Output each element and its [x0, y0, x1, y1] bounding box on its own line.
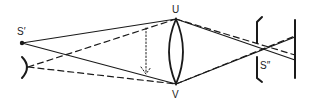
ray-u-to-screen: [176, 19, 295, 60]
dashed-ray-eye-to-v: [28, 67, 176, 84]
eye-icon: [22, 57, 27, 78]
label-u: U: [172, 4, 179, 15]
label-s-prime: S′: [17, 26, 26, 37]
ray-s-to-u: [22, 19, 176, 43]
ray-s-to-v: [22, 43, 176, 84]
label-v: V: [172, 89, 179, 100]
optics-diagram: S′ U V S″: [0, 0, 311, 101]
label-s-double-prime: S″: [260, 60, 271, 71]
convex-lens: [169, 19, 183, 84]
source-point: [20, 41, 24, 45]
dashed-ray-eye-to-u: [28, 19, 176, 67]
dashed-ray-u-to-screen: [176, 19, 295, 55]
